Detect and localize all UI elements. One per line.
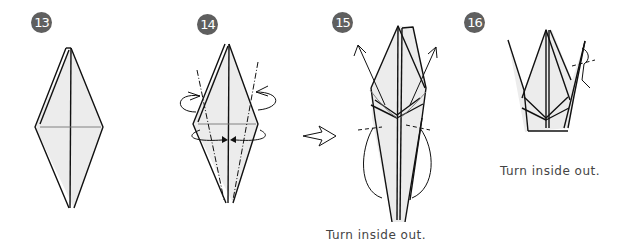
inside-reverse-fold-diagram [160,0,305,249]
step-16: 16 Turn inside out. [460,0,619,249]
crane-body-diagram [340,0,465,249]
step-14: 14 [160,0,305,249]
kite-fold-diagram [0,0,160,249]
crane-neck-tail-diagram [460,0,619,249]
step-15-caption: Turn inside out. [326,228,426,242]
step-13: 13 [0,0,160,249]
hollow-right-arrow-icon [300,124,340,148]
step-15: 15 Turn inside out. [340,0,465,249]
step-16-caption: Turn inside out. [500,164,600,178]
